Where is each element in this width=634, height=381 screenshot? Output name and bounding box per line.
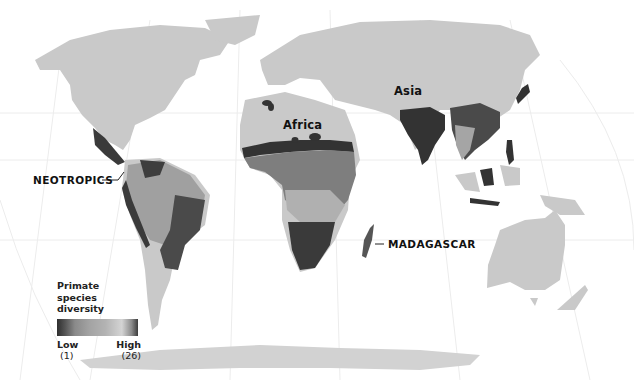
philippines-diversity	[506, 140, 514, 165]
tasmania	[530, 298, 538, 306]
north-africa-spot	[292, 137, 299, 143]
legend-high-value: (26)	[118, 350, 141, 361]
new-guinea	[540, 195, 585, 215]
region-label-africa: Africa	[283, 118, 322, 132]
north-africa-spot	[309, 133, 321, 141]
morocco-spot	[268, 103, 274, 111]
callout-neotropics: NEOTROPICS	[33, 174, 113, 186]
legend: Primate species diversity Low (1) High (…	[57, 280, 141, 361]
legend-low-label: Low	[57, 339, 78, 350]
legend-low-value: (1)	[57, 350, 78, 361]
callout-madagascar: MADAGASCAR	[388, 238, 476, 250]
australia	[487, 210, 565, 290]
new-zealand	[557, 285, 588, 310]
legend-title-line2: diversity	[57, 303, 141, 315]
legend-low-end: Low (1)	[57, 339, 78, 361]
legend-high-end: High (26)	[116, 339, 141, 361]
africa-south-dark	[288, 222, 335, 270]
legend-gradient-bar	[57, 319, 138, 336]
primate-diversity-map: Africa Asia NEOTROPICS MADAGASCAR Primat…	[0, 0, 634, 381]
legend-scale-ends: Low (1) High (26)	[57, 339, 141, 361]
region-label-asia: Asia	[394, 84, 422, 98]
india-diversity	[400, 107, 445, 165]
madagascar	[362, 224, 374, 258]
north-america	[35, 25, 230, 150]
legend-high-label: High	[116, 339, 141, 350]
legend-title-line1: Primate species	[57, 280, 141, 303]
